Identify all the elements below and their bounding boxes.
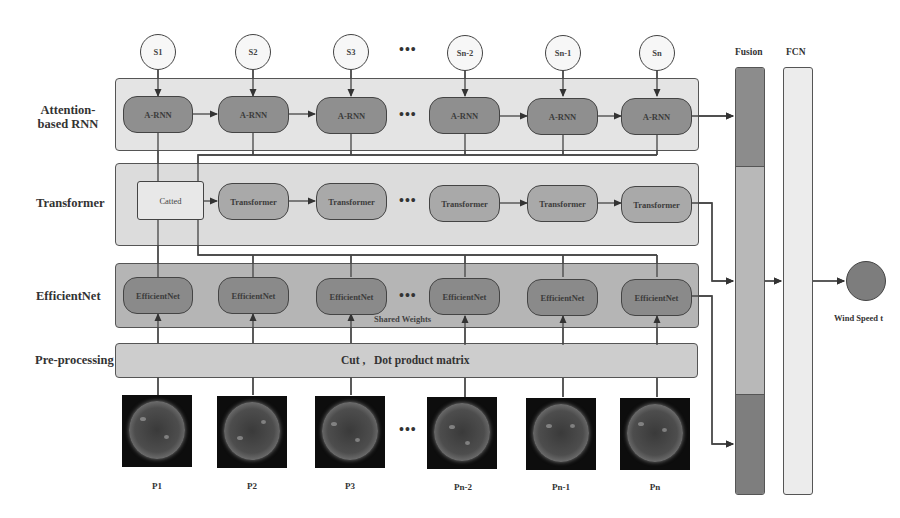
a-rnn-node-1: A-RNN: [123, 96, 193, 133]
efficientnet-node-3: EfficientNet: [316, 278, 387, 315]
input-image-p1: [122, 395, 192, 467]
transformer-node-n-2: Transformer: [429, 185, 500, 222]
a-rnn-node-3: A-RNN: [316, 97, 387, 134]
efficientnet-node-n-2: EfficientNet: [429, 278, 500, 315]
architecture-diagram: Attention- based RNN Transformer Efficie…: [0, 0, 900, 518]
efficientnet-node-1: EfficientNet: [123, 277, 193, 314]
a-rnn-node-n: A-RNN: [621, 98, 692, 135]
transformer-node-n-1: Transformer: [527, 185, 598, 222]
input-node-s3: S3: [333, 34, 369, 70]
transformer-node-3: Transformer: [316, 183, 387, 220]
ellipsis-transformer: •••: [399, 193, 417, 209]
input-image-pn-2: [427, 397, 497, 469]
catted-box: Catted: [137, 181, 204, 220]
ellipsis-efficientnet: •••: [399, 288, 417, 304]
input-node-sn-1: Sn-1: [545, 35, 581, 71]
input-image-pn: [620, 398, 690, 470]
fusion-segment-efficientnet: [736, 394, 764, 495]
input-node-sn: Sn: [639, 35, 675, 71]
efficientnet-node-n: EfficientNet: [621, 279, 692, 316]
input-image-p2: [217, 396, 287, 468]
transformer-node-n: Transformer: [621, 186, 692, 223]
transformer-node-2: Transformer: [218, 183, 289, 220]
preprocessing-description: Cut , Dot product matrix: [341, 354, 470, 366]
ellipsis-images: •••: [399, 422, 417, 438]
fusion-segment-rnn: [736, 68, 764, 167]
wind-speed-output-node: [846, 261, 886, 301]
input-node-sn-2: Sn-2: [447, 35, 483, 71]
input-image-p3: [315, 396, 385, 468]
fcn-bar: [783, 67, 813, 495]
a-rnn-node-n-1: A-RNN: [527, 98, 598, 135]
efficientnet-node-n-1: EfficientNet: [527, 279, 598, 316]
a-rnn-node-n-2: A-RNN: [429, 97, 500, 134]
shared-weights-label: Shared Weights: [374, 314, 431, 324]
efficientnet-node-2: EfficientNet: [218, 277, 289, 314]
ellipsis-inputs: •••: [399, 42, 417, 58]
ellipsis-rnn: •••: [399, 107, 417, 123]
fusion-bar: [735, 67, 765, 495]
input-image-pn-1: [526, 398, 596, 470]
input-node-s2: S2: [235, 34, 271, 70]
a-rnn-node-2: A-RNN: [218, 96, 289, 133]
input-node-s1: S1: [140, 34, 176, 70]
